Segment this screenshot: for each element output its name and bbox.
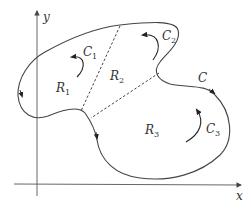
x-axis <box>14 184 241 185</box>
svg-text:1: 1 <box>65 88 70 97</box>
label-r3: R 3 <box>144 123 159 139</box>
green-theorem-diagram: y x C 1 C 2 C 3 C R 1 R 2 R 3 <box>0 0 251 209</box>
svg-text:C: C <box>83 45 92 59</box>
divider-r2-r3 <box>91 73 159 118</box>
svg-text:C: C <box>162 29 171 43</box>
c3-orientation-arrow <box>186 110 201 142</box>
label-c3: C 3 <box>206 122 220 138</box>
svg-text:3: 3 <box>215 129 220 138</box>
svg-text:2: 2 <box>171 36 176 45</box>
svg-text:3: 3 <box>154 130 159 139</box>
c1-orientation-arrow <box>72 57 83 77</box>
curve-c <box>18 23 230 179</box>
svg-text:R: R <box>55 81 65 95</box>
y-axis-label: y <box>42 10 50 24</box>
label-r2: R 2 <box>109 69 124 85</box>
svg-text:C: C <box>206 122 215 136</box>
svg-text:1: 1 <box>92 52 97 61</box>
c2-orientation-arrow <box>143 35 158 60</box>
svg-text:R: R <box>144 123 154 137</box>
curve-arrow-left <box>20 90 22 96</box>
label-r1: R 1 <box>55 81 70 97</box>
svg-text:R: R <box>109 69 119 83</box>
label-c1: C 1 <box>83 45 97 61</box>
svg-text:2: 2 <box>119 76 124 85</box>
label-c2: C 2 <box>162 29 176 45</box>
x-axis-label: x <box>236 189 243 203</box>
label-c: C <box>198 71 207 85</box>
